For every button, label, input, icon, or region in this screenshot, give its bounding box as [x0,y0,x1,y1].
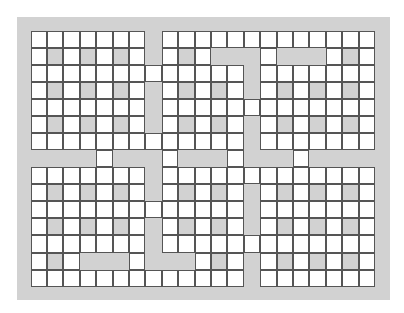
grid-cell[interactable] [178,31,194,48]
grid-cell[interactable] [342,133,358,150]
grid-cell[interactable] [293,31,309,48]
shaded-cell[interactable] [178,82,194,99]
grid-cell[interactable] [293,150,309,167]
shaded-cell[interactable] [342,184,358,201]
shaded-cell[interactable] [342,82,358,99]
grid-cell[interactable] [227,150,243,167]
grid-cell[interactable] [309,270,325,287]
grid-cell[interactable] [195,48,211,65]
grid-cell[interactable] [47,270,63,287]
shaded-cell[interactable] [342,48,358,65]
grid-cell[interactable] [359,270,375,287]
grid-cell[interactable] [96,201,112,218]
grid-cell[interactable] [129,116,145,133]
grid-cell[interactable] [31,65,47,82]
grid-cell[interactable] [162,31,178,48]
shaded-cell[interactable] [211,82,227,99]
shaded-cell[interactable] [211,253,227,270]
grid-cell[interactable] [227,116,243,133]
grid-cell[interactable] [162,201,178,218]
grid-cell[interactable] [227,235,243,252]
grid-cell[interactable] [63,133,79,150]
grid-cell[interactable] [47,65,63,82]
grid-cell[interactable] [145,270,161,287]
grid-cell[interactable] [359,65,375,82]
grid-cell[interactable] [211,270,227,287]
grid-cell[interactable] [293,65,309,82]
grid-cell[interactable] [326,201,342,218]
grid-cell[interactable] [227,218,243,235]
grid-cell[interactable] [195,201,211,218]
grid-cell[interactable] [195,65,211,82]
grid-cell[interactable] [244,167,260,184]
grid-cell[interactable] [178,133,194,150]
shaded-cell[interactable] [342,116,358,133]
grid-cell[interactable] [47,99,63,116]
shaded-cell[interactable] [211,116,227,133]
grid-cell[interactable] [96,133,112,150]
grid-cell[interactable] [129,48,145,65]
grid-cell[interactable] [96,99,112,116]
shaded-cell[interactable] [277,253,293,270]
grid-cell[interactable] [162,133,178,150]
grid-cell[interactable] [31,235,47,252]
grid-cell[interactable] [293,184,309,201]
grid-cell[interactable] [260,48,276,65]
grid-cell[interactable] [129,235,145,252]
grid-cell[interactable] [162,235,178,252]
grid-cell[interactable] [31,270,47,287]
grid-cell[interactable] [277,235,293,252]
grid-cell[interactable] [80,133,96,150]
shaded-cell[interactable] [113,184,129,201]
grid-cell[interactable] [260,235,276,252]
grid-cell[interactable] [227,201,243,218]
grid-cell[interactable] [211,99,227,116]
grid-cell[interactable] [359,48,375,65]
grid-cell[interactable] [31,184,47,201]
grid-cell[interactable] [31,116,47,133]
grid-cell[interactable] [96,167,112,184]
grid-cell[interactable] [277,270,293,287]
grid-cell[interactable] [113,270,129,287]
grid-cell[interactable] [195,167,211,184]
shaded-cell[interactable] [277,82,293,99]
grid-cell[interactable] [63,65,79,82]
grid-cell[interactable] [80,99,96,116]
shaded-cell[interactable] [47,116,63,133]
grid-cell[interactable] [162,150,178,167]
grid-cell[interactable] [244,31,260,48]
grid-cell[interactable] [293,99,309,116]
grid-cell[interactable] [195,31,211,48]
grid-cell[interactable] [326,31,342,48]
grid-cell[interactable] [359,31,375,48]
grid-cell[interactable] [195,253,211,270]
grid-cell[interactable] [129,65,145,82]
grid-cell[interactable] [129,133,145,150]
grid-cell[interactable] [227,31,243,48]
shaded-cell[interactable] [178,116,194,133]
grid-cell[interactable] [63,99,79,116]
grid-cell[interactable] [178,270,194,287]
shaded-cell[interactable] [309,116,325,133]
grid-cell[interactable] [326,253,342,270]
grid-cell[interactable] [359,116,375,133]
grid-cell[interactable] [277,201,293,218]
grid-cell[interactable] [113,133,129,150]
grid-cell[interactable] [260,65,276,82]
grid-cell[interactable] [178,65,194,82]
grid-cell[interactable] [63,201,79,218]
grid-cell[interactable] [359,99,375,116]
grid-cell[interactable] [31,201,47,218]
grid-cell[interactable] [145,201,161,218]
grid-cell[interactable] [309,167,325,184]
grid-cell[interactable] [162,270,178,287]
grid-cell[interactable] [195,235,211,252]
grid-cell[interactable] [31,31,47,48]
shaded-cell[interactable] [277,184,293,201]
shaded-cell[interactable] [211,184,227,201]
grid-cell[interactable] [129,270,145,287]
grid-cell[interactable] [195,116,211,133]
grid-cell[interactable] [80,201,96,218]
shaded-cell[interactable] [47,48,63,65]
grid-cell[interactable] [326,48,342,65]
